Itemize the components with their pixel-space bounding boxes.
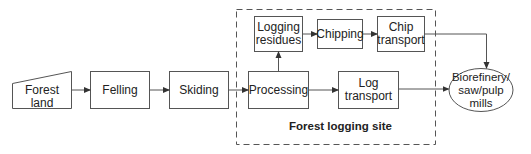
group-label-forest-logging-site: Forest logging site [289,120,392,132]
node-felling: Felling [90,71,150,109]
arrow-chiptransport-to-biorefinery [425,34,487,68]
node-chipping: Chipping [317,19,363,49]
node-chip-transport: Chip transport [377,16,425,52]
node-biorefinery: Biorefinery/ saw/pulp mills [449,68,513,112]
node-forest-land: Forest land [12,84,72,109]
node-skiding: Skiding [169,71,229,109]
node-logging-residues: Logging residues [254,16,303,52]
node-log-transport: Log transport [338,71,399,109]
node-processing: Processing [248,71,309,109]
